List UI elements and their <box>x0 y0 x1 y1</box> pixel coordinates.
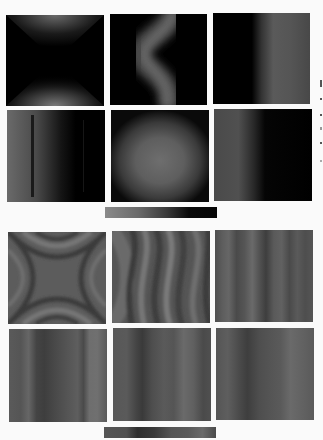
edge-mark <box>320 98 322 100</box>
intensity-panel-left-gradient-line <box>7 110 105 202</box>
phase-panel-astroid <box>8 232 106 324</box>
phase-panel-wavy <box>112 231 210 323</box>
edge-mark <box>320 114 322 116</box>
phase-panel-stripes-1 <box>215 230 313 322</box>
phase-colorbar <box>104 427 216 438</box>
phase-panel-stripes-3 <box>113 328 211 421</box>
intensity-panel-hourglass <box>6 15 104 106</box>
edge-mark <box>320 127 322 130</box>
edge-mark <box>320 160 322 162</box>
intensity-panel-disc <box>111 110 209 202</box>
intensity-colorbar <box>105 207 217 218</box>
edge-mark <box>320 142 322 144</box>
intensity-panel-s-wave <box>110 14 207 105</box>
phase-panel-stripes-4 <box>216 328 314 420</box>
intensity-panel-left-fade <box>214 109 312 201</box>
intensity-panel-right-band <box>213 13 310 104</box>
edge-mark <box>320 80 322 87</box>
phase-panel-stripes-2 <box>9 329 107 422</box>
